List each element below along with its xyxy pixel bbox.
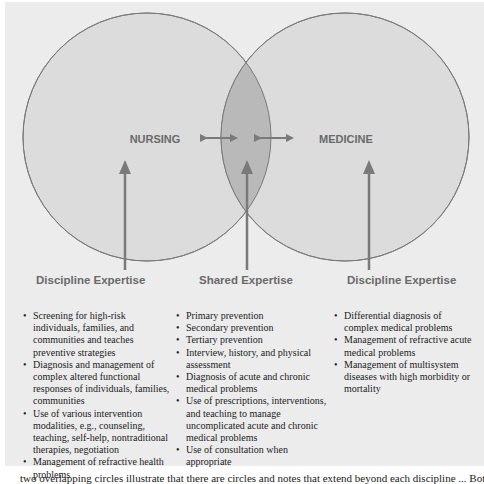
list-item: Differential diagnosis of complex medica… [333, 310, 473, 334]
heading-shared-expertise: Shared Expertise [199, 274, 293, 286]
list-item: Diagnosis of acute and chronic medical p… [175, 371, 335, 395]
heading-medicine-discipline: Discipline Expertise [347, 274, 456, 286]
list-item: Use of prescriptions, interventions, and… [175, 395, 335, 444]
list-item: Interview, history, and physical assessm… [175, 347, 335, 371]
list-item: Use of various intervention modalities, … [22, 408, 172, 457]
nursing-expertise-list: Screening for high-risk individuals, fam… [22, 310, 172, 481]
list-item: Tertiary prevention [175, 334, 335, 346]
shared-expertise-list: Primary prevention Secondary prevention … [175, 310, 335, 469]
nursing-label: NURSING [130, 133, 181, 145]
list-item: Management of multisystem diseases with … [333, 359, 473, 396]
list-item: Primary prevention [175, 310, 335, 322]
heading-nursing-discipline: Discipline Expertise [36, 274, 145, 286]
medicine-label: MEDICINE [319, 133, 373, 145]
venn-diagram: NURSING MEDICINE [0, 0, 484, 300]
list-item: Management of refractive acute medical p… [333, 334, 473, 358]
list-item: Screening for high-risk individuals, fam… [22, 310, 172, 359]
medicine-expertise-list: Differential diagnosis of complex medica… [333, 310, 473, 395]
cropped-body-text: two overlapping circles illustrate that … [0, 472, 484, 484]
list-item: Diagnosis and management of complex alte… [22, 359, 172, 408]
list-item: Secondary prevention [175, 322, 335, 334]
list-item: Use of consultation when appropriate [175, 444, 335, 468]
